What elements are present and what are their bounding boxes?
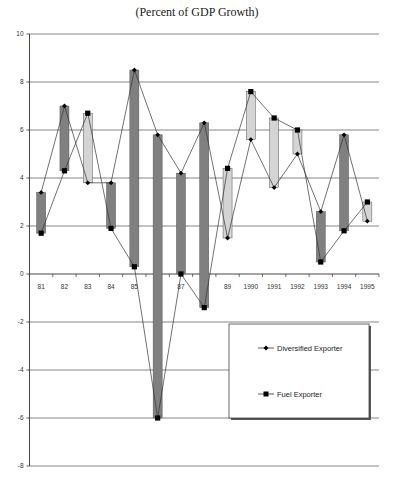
square-marker-icon [132, 264, 137, 269]
y-tick-label: 2 [20, 222, 24, 229]
y-axis: -8-6-4-20246810 [16, 30, 29, 469]
y-tick-label: 4 [20, 174, 24, 181]
x-tick-label: 1991 [267, 283, 282, 290]
up-down-bar [130, 70, 139, 267]
x-tick-label: 82 [61, 283, 69, 290]
up-down-bar [270, 118, 279, 188]
square-marker-icon [62, 168, 67, 173]
up-down-bar [293, 130, 302, 154]
x-tick-label: 89 [224, 283, 232, 290]
x-tick-label: 1992 [290, 283, 305, 290]
up-down-bar [246, 92, 255, 140]
up-down-bar [223, 168, 232, 238]
x-tick-label: 1994 [337, 283, 352, 290]
square-marker-icon [248, 89, 253, 94]
up-down-bar [363, 202, 372, 221]
square-marker-icon [155, 415, 160, 420]
square-marker-icon [264, 392, 269, 397]
square-marker-icon [365, 199, 370, 204]
square-marker-icon [108, 226, 113, 231]
x-tick-label: 1990 [244, 283, 259, 290]
x-tick-label: 83 [84, 283, 92, 290]
legend-label-fuel: Fuel Exporter [277, 390, 323, 399]
y-tick-label: -8 [18, 462, 24, 469]
up-down-bar [316, 212, 325, 262]
square-marker-icon [178, 271, 183, 276]
x-tick-label: 84 [107, 283, 115, 290]
x-tick-label: 1995 [360, 283, 375, 290]
legend: Diversified Exporter Fuel Exporter [229, 324, 371, 420]
y-tick-label: -2 [18, 318, 24, 325]
square-marker-icon [202, 305, 207, 310]
square-marker-icon [272, 115, 277, 120]
square-marker-icon [318, 259, 323, 264]
legend-box [229, 324, 369, 418]
square-marker-icon [225, 166, 230, 171]
chart-plot: -8-6-4-20246810 818283848586878889199019… [0, 0, 394, 478]
y-tick-label: -4 [18, 366, 24, 373]
square-marker-icon [39, 231, 44, 236]
legend-label-diversified: Diversified Exporter [277, 344, 343, 353]
up-down-bar [153, 135, 162, 418]
up-down-bar [107, 183, 116, 229]
y-tick-label: 0 [20, 270, 24, 277]
up-down-bar [340, 135, 349, 231]
y-tick-label: 10 [16, 30, 24, 37]
square-marker-icon [85, 111, 90, 116]
y-tick-label: -6 [18, 414, 24, 421]
up-down-bar [200, 123, 209, 308]
square-marker-icon [341, 228, 346, 233]
x-tick-label: 81 [38, 283, 46, 290]
y-tick-label: 6 [20, 126, 24, 133]
up-down-bar [37, 192, 46, 233]
square-marker-icon [295, 127, 300, 132]
up-down-bar [176, 173, 185, 274]
x-tick-label: 1993 [314, 283, 329, 290]
y-tick-label: 8 [20, 78, 24, 85]
